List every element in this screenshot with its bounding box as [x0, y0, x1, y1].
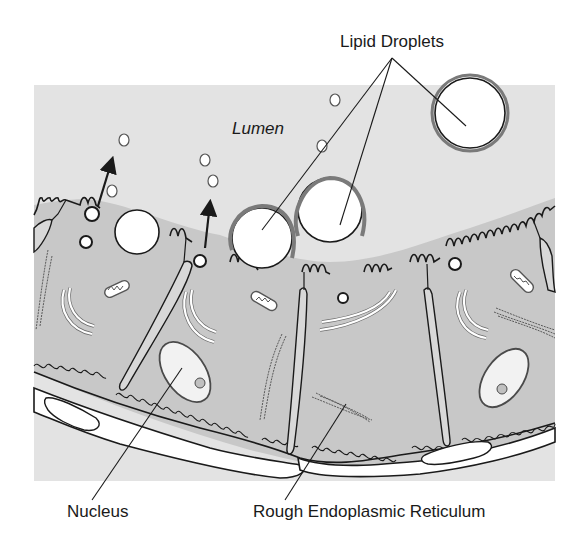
- label-lipid-droplets: Lipid Droplets: [340, 32, 444, 52]
- label-rough-er: Rough Endoplasmic Reticulum: [253, 502, 485, 522]
- epithelium-diagram: [0, 0, 580, 541]
- label-nucleus: Nucleus: [67, 502, 128, 522]
- lipid-droplet-1: [115, 210, 159, 254]
- lipid-droplet-lumen: [435, 78, 505, 148]
- label-lumen: Lumen: [232, 119, 284, 139]
